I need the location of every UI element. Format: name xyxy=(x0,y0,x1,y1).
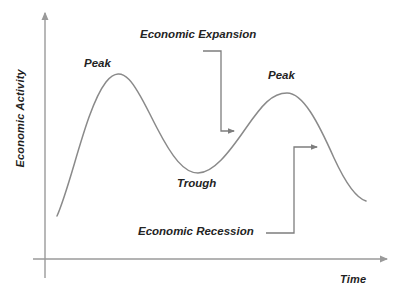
expansion-leader-line xyxy=(203,51,234,131)
diagram-canvas xyxy=(0,0,407,302)
business-cycle-diagram: Economic Activity Time Peak Peak Trough … xyxy=(0,0,407,302)
label-economic-expansion: Economic Expansion xyxy=(140,29,256,41)
label-peak-second: Peak xyxy=(268,70,295,82)
x-axis-title: Time xyxy=(340,274,366,285)
label-trough: Trough xyxy=(177,178,216,190)
label-economic-recession: Economic Recession xyxy=(138,226,254,238)
label-peak-first: Peak xyxy=(84,58,111,70)
recession-leader-line xyxy=(266,147,317,233)
y-axis-title: Economic Activity xyxy=(15,80,26,168)
business-cycle-curve xyxy=(57,74,366,216)
